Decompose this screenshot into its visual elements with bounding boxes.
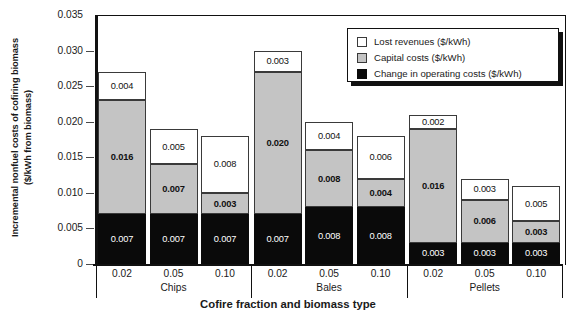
bar-segment[interactable]: 0.003 <box>461 243 509 264</box>
y-tick-mark <box>86 86 94 87</box>
bar-value-label: 0.008 <box>214 159 236 169</box>
bar-segment[interactable]: 0.007 <box>150 164 198 214</box>
y-tick-mark <box>86 193 94 194</box>
bar-value-label: 0.020 <box>266 138 288 148</box>
group-separator <box>407 264 408 298</box>
bar-segment[interactable]: 0.006 <box>357 136 405 179</box>
y-tick-label: 0.020 <box>0 116 93 128</box>
bar-value-label: 0.003 <box>525 248 547 258</box>
legend-label: Change in operating costs ($/kWh) <box>374 68 522 79</box>
bar-segment[interactable]: 0.005 <box>512 186 560 222</box>
bar-segment[interactable]: 0.003 <box>512 221 560 242</box>
bar-segment[interactable]: 0.003 <box>512 243 560 264</box>
bar-value-label: 0.003 <box>266 56 288 66</box>
bar-value-label: 0.007 <box>162 184 184 194</box>
stacked-bar[interactable]: 0.0070.0200.003 <box>254 15 302 264</box>
y-tick-mark <box>86 157 94 158</box>
bar-segment[interactable]: 0.020 <box>254 72 302 214</box>
bar-value-label: 0.004 <box>318 131 340 141</box>
bar-segment[interactable]: 0.007 <box>254 214 302 264</box>
y-tick-label: 0 <box>0 258 93 270</box>
y-tick-label: 0.010 <box>0 187 93 199</box>
bar-value-label: 0.016 <box>422 181 444 191</box>
chart-legend: Lost revenues ($/kWh)Capital costs ($/kW… <box>347 28 559 82</box>
bar-value-label: 0.007 <box>111 234 133 244</box>
bar-segment[interactable]: 0.007 <box>150 214 198 264</box>
group-separator <box>96 264 97 298</box>
category-label: 0.10 <box>506 268 566 279</box>
bar-value-label: 0.005 <box>162 142 184 152</box>
bar-segment[interactable]: 0.008 <box>201 136 249 193</box>
bar-value-label: 0.008 <box>318 231 340 241</box>
chart-figure: Incremental nonfuel costs of cofiring bi… <box>0 0 576 321</box>
y-tick-mark <box>86 51 94 52</box>
bar-value-label: 0.007 <box>214 234 236 244</box>
bar-segment[interactable]: 0.006 <box>461 200 509 243</box>
bar-segment[interactable]: 0.004 <box>98 72 146 100</box>
bar-segment[interactable]: 0.008 <box>357 207 405 264</box>
bar-value-label: 0.007 <box>266 234 288 244</box>
y-tick-label: 0.030 <box>0 45 93 57</box>
legend-entry[interactable]: Lost revenues ($/kWh) <box>357 34 558 49</box>
y-tick-label: 0.035 <box>0 9 93 21</box>
stacked-bar[interactable]: 0.0070.0070.005 <box>150 15 198 264</box>
legend-entry[interactable]: Change in operating costs ($/kWh) <box>357 66 558 81</box>
y-tick-label: 0.005 <box>0 222 93 234</box>
bar-value-label: 0.003 <box>422 248 444 258</box>
bar-segment[interactable]: 0.008 <box>305 150 353 207</box>
x-axis-title: Cofire fraction and biomass type <box>0 298 576 310</box>
bar-segment[interactable]: 0.016 <box>409 129 457 243</box>
bar-value-label: 0.007 <box>162 234 184 244</box>
group-separator <box>251 264 252 298</box>
category-label: 0.10 <box>351 268 411 279</box>
bar-segment[interactable]: 0.007 <box>201 214 249 264</box>
legend-label: Capital costs ($/kWh) <box>374 52 465 63</box>
bar-segment[interactable]: 0.004 <box>305 122 353 150</box>
bar-value-label: 0.003 <box>525 227 547 237</box>
legend-label: Lost revenues ($/kWh) <box>374 36 471 47</box>
bar-value-label: 0.006 <box>369 152 391 162</box>
group-separator <box>562 264 563 298</box>
bar-segment[interactable]: 0.008 <box>305 207 353 264</box>
legend-swatch-oper <box>357 69 367 79</box>
stacked-bar[interactable]: 0.0080.0080.004 <box>305 15 353 264</box>
stacked-bar[interactable]: 0.0070.0160.004 <box>98 15 146 264</box>
bar-value-label: 0.016 <box>111 152 133 162</box>
y-tick-label: 0.025 <box>0 80 93 92</box>
bar-segment[interactable]: 0.003 <box>461 179 509 200</box>
bar-segment[interactable]: 0.002 <box>409 115 457 129</box>
category-label: 0.10 <box>195 268 255 279</box>
bar-segment[interactable]: 0.003 <box>409 243 457 264</box>
bar-value-label: 0.003 <box>474 248 496 258</box>
bar-value-label: 0.008 <box>318 174 340 184</box>
bar-segment[interactable]: 0.003 <box>201 193 249 214</box>
bar-segment[interactable]: 0.003 <box>254 51 302 72</box>
category-tick-labels: 0.020.050.100.020.050.100.020.050.10 <box>95 266 562 282</box>
y-tick-label: 0.015 <box>0 151 93 163</box>
group-label: Bales <box>269 282 389 293</box>
bar-value-label: 0.006 <box>474 216 496 226</box>
group-labels: ChipsBalesPellets <box>95 282 562 298</box>
legend-entry[interactable]: Capital costs ($/kWh) <box>357 50 558 65</box>
bar-value-label: 0.008 <box>369 231 391 241</box>
bar-value-label: 0.002 <box>422 117 444 127</box>
bar-value-label: 0.004 <box>369 188 391 198</box>
y-tick-mark <box>86 228 94 229</box>
legend-swatch-lost <box>357 37 367 47</box>
stacked-bar[interactable]: 0.0070.0030.008 <box>201 15 249 264</box>
group-label: Chips <box>114 282 234 293</box>
bar-value-label: 0.004 <box>111 81 133 91</box>
bar-value-label: 0.003 <box>214 199 236 209</box>
bar-value-label: 0.003 <box>474 184 496 194</box>
bar-segment[interactable]: 0.016 <box>98 100 146 214</box>
y-tick-mark <box>86 122 94 123</box>
bar-value-label: 0.005 <box>525 199 547 209</box>
group-label: Pellets <box>425 282 545 293</box>
legend-swatch-capital <box>357 53 367 63</box>
bar-segment[interactable]: 0.005 <box>150 129 198 165</box>
bar-segment[interactable]: 0.007 <box>98 214 146 264</box>
bar-segment[interactable]: 0.004 <box>357 179 405 207</box>
